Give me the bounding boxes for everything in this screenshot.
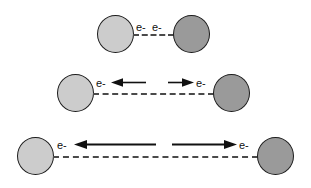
electron-label-row2-left: e- [96, 78, 106, 89]
diagram-row-1: e- e- [0, 12, 311, 68]
arrow-right-icon-row3 [172, 140, 237, 149]
arrow-left-icon-row2 [111, 78, 146, 87]
bond-dashed-row1 [133, 34, 174, 36]
atom-light-row2-left [57, 74, 94, 112]
bond-dashed-row2 [93, 93, 214, 95]
diagram-row-2: e- e- [0, 70, 311, 126]
electron-label-row3-right: e- [239, 140, 249, 151]
arrow-right-icon-row2 [168, 78, 194, 87]
electron-label-row2-right: e- [196, 78, 206, 89]
bond-dashed-row3 [53, 156, 258, 158]
diagram-row-3: e- e- [0, 133, 311, 188]
electron-label-row1-a: e- [136, 22, 146, 33]
electron-label-row3-left: e- [57, 140, 67, 151]
electron-label-row1-b: e- [152, 22, 162, 33]
atom-light-row1-left [97, 15, 134, 53]
atom-dark-row1-right [173, 15, 210, 53]
atom-dark-row2-right [213, 74, 250, 112]
arrow-left-icon-row3 [74, 140, 156, 149]
electron-polarization-figure: e- e- e- e- e- [0, 0, 311, 188]
atom-dark-row3-right [257, 137, 294, 175]
atom-light-row3-left [17, 137, 54, 175]
